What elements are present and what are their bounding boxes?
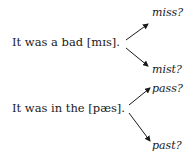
arrow-down-icon <box>126 48 148 66</box>
arrow-up-icon <box>126 24 148 40</box>
branch-arrows <box>0 0 195 156</box>
arrow-down-icon <box>129 113 150 141</box>
arrow-up-icon <box>129 88 150 105</box>
